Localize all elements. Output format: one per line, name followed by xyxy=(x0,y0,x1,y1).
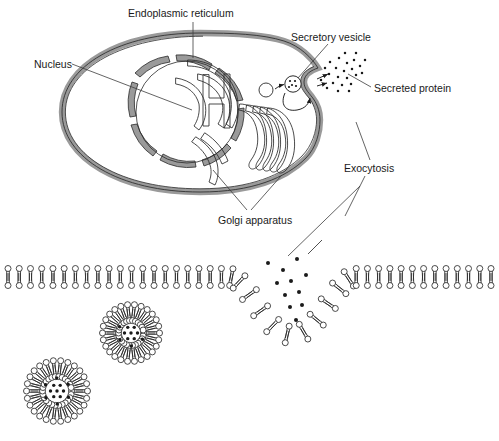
label-endoplasmic-reticulum: Endoplasmic reticulum xyxy=(128,7,234,19)
label-exocytosis: Exocytosis xyxy=(344,162,394,174)
label-secretory-vesicle: Secretory vesicle xyxy=(291,31,371,43)
exocytosis-diagram: Nucleus Endoplasmic reticulum Secretory … xyxy=(0,0,499,441)
label-secreted-protein: Secreted protein xyxy=(374,82,451,94)
label-golgi-apparatus: Golgi apparatus xyxy=(218,214,292,226)
transport-vesicle xyxy=(259,83,273,97)
label-nucleus: Nucleus xyxy=(34,58,72,70)
secretory-vesicle xyxy=(285,76,301,92)
